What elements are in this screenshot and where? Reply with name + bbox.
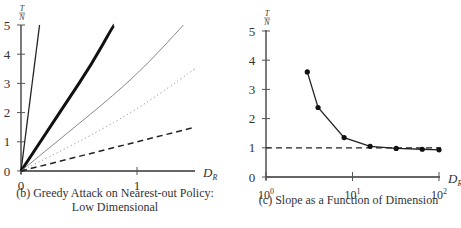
y-tick-label: 2	[249, 111, 256, 126]
y-label-numerator: T	[265, 9, 270, 18]
caption-b-line2: Low Dimensional	[0, 200, 230, 214]
y-tick-label: 5	[249, 24, 256, 39]
caption-c-line1: (c) Slope as a Function of Dimension	[236, 193, 461, 207]
data-point-marker	[420, 147, 425, 152]
y-tick-label: 5	[4, 18, 11, 33]
y-tick-label: 3	[4, 76, 11, 91]
data-point-marker	[315, 105, 320, 110]
y-tick-label: 2	[4, 105, 11, 120]
y-tick-label: 1	[4, 134, 11, 149]
caption-chart-b: (b) Greedy Attack on Nearest-out Policy:…	[0, 186, 230, 214]
x-label: DR	[202, 165, 217, 182]
data-point-marker	[436, 147, 441, 152]
data-point-marker	[394, 146, 399, 151]
chart-greedy-attack: 012345TNDR01	[4, 4, 218, 193]
chart-slope-vs-dimension: 012345TNDR100101102	[249, 9, 461, 202]
slope-series-line	[307, 72, 439, 150]
y-tick-label: 4	[249, 53, 256, 68]
caption-b-line1: (b) Greedy Attack on Nearest-out Policy:	[0, 186, 230, 200]
data-point-marker	[368, 144, 373, 149]
caption-chart-c: (c) Slope as a Function of Dimension	[236, 193, 461, 207]
y-label-denominator: N	[18, 13, 25, 22]
y-tick-label: 4	[4, 47, 11, 62]
data-point-marker	[305, 69, 310, 74]
y-label-denominator: N	[263, 18, 270, 27]
series-line-solid-thick	[21, 25, 114, 171]
y-tick-label: 0	[4, 164, 11, 179]
y-tick-label: 1	[249, 140, 256, 155]
y-tick-label: 0	[249, 170, 256, 185]
y-tick-label: 3	[249, 82, 256, 97]
series-line-dotted	[21, 69, 195, 171]
y-label-numerator: T	[20, 4, 25, 13]
data-point-marker	[342, 135, 347, 140]
x-label: DR	[447, 171, 461, 188]
